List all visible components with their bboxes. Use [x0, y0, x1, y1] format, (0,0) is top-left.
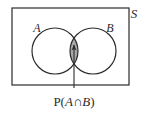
set-b-label: B — [106, 21, 114, 35]
annotation-right-set: B — [82, 94, 90, 109]
annotation-suffix: ) — [90, 94, 94, 109]
annotation-operator: ∩ — [73, 94, 82, 109]
universal-set-label: S — [131, 6, 138, 21]
venn-diagram-figure: S A B P(A∩B) — [0, 0, 148, 115]
annotation-prefix: P( — [53, 94, 65, 109]
set-a-label: A — [32, 21, 41, 35]
intersection-probability-label: P(A∩B) — [53, 94, 94, 109]
venn-diagram-canvas: S A B P(A∩B) — [0, 0, 148, 115]
annotation-left-set: A — [64, 94, 73, 109]
